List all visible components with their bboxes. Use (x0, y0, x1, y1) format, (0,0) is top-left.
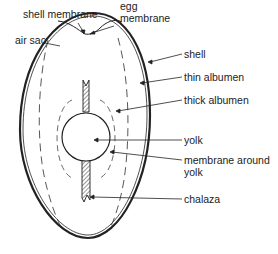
label-thick-albumen: thick albumen (184, 94, 249, 106)
air-sac (58, 20, 122, 34)
label-thin-albumen: thin albumen (184, 71, 244, 83)
label-egg-membrane-line2: membrane (120, 12, 170, 24)
chalaza-bottom (82, 160, 90, 202)
egg-diagram: shell membrane egg membrane air sac shel… (0, 0, 278, 254)
label-yolk: yolk (184, 134, 203, 146)
thick-albumen-boundary (39, 40, 60, 225)
label-membrane-around-yolk-line2: yolk (184, 166, 203, 178)
yolk (62, 113, 110, 161)
label-egg-membrane-line1: egg (120, 0, 138, 12)
thick-albumen-boundary-right (110, 38, 128, 228)
chalaza-top (83, 80, 89, 112)
label-shell: shell (184, 48, 206, 60)
label-membrane-around-yolk-line1: membrane around (184, 154, 270, 166)
label-shell-membrane: shell membrane (23, 8, 98, 20)
leader-lines (45, 23, 182, 199)
label-air-sac: air sac (15, 34, 46, 46)
label-chalaza: chalaza (184, 193, 220, 205)
